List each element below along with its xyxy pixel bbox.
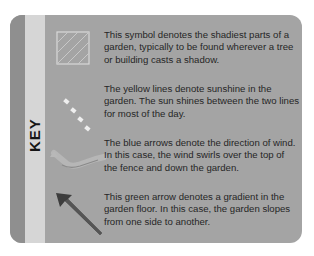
- key-entry-sunshine: The yellow lines denote sunshine in the …: [104, 83, 300, 120]
- key-title: KEY: [27, 116, 43, 152]
- left-strip-dark: [10, 15, 25, 243]
- key-entry-slope: This green arrow denotes a gradient in t…: [104, 191, 300, 228]
- key-card: KEY This symbol denotes the shadiest par…: [10, 15, 302, 243]
- key-entry-shade: This symbol denotes the shadiest parts o…: [104, 29, 300, 66]
- key-entry-wind: The blue arrows denote the direction of …: [104, 137, 300, 174]
- dashed-line-icon: [60, 79, 100, 135]
- diagonal-arrow-icon: [54, 191, 104, 237]
- hatched-square-icon: [56, 31, 90, 65]
- curved-arrow-icon: [48, 145, 110, 175]
